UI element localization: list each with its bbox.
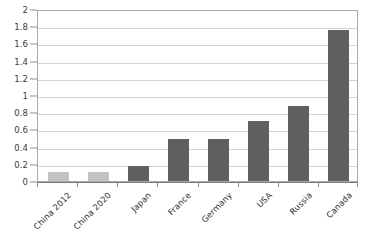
x-axis-category-label: USA	[254, 190, 274, 210]
y-axis-tick-mark	[30, 44, 37, 45]
x-axis-category-label: China 2012	[31, 190, 73, 232]
y-axis-tick-label: 1.2	[0, 75, 28, 84]
x-axis-tick-marks	[37, 182, 358, 187]
bar-chart: 00.20.40.60.811.21.41.61.82 China 2012Ch…	[0, 0, 385, 241]
y-axis-tick-label: 0.8	[0, 109, 28, 118]
bar	[328, 30, 349, 181]
bar-series	[38, 11, 357, 181]
x-axis-tick-mark	[117, 182, 118, 187]
y-axis-tick-mark	[30, 96, 37, 97]
x-axis-tick-mark	[357, 182, 358, 187]
y-axis-tick-mark	[30, 27, 37, 28]
x-axis-category-label: Russia	[287, 190, 314, 217]
y-axis-tick-label: 0.6	[0, 126, 28, 135]
y-axis-tick-mark	[30, 182, 37, 183]
y-axis-tick-mark	[30, 78, 37, 79]
y-axis-tick-label: 1.4	[0, 57, 28, 66]
bar	[48, 172, 69, 181]
bar	[208, 139, 229, 181]
y-axis-tick-mark	[30, 61, 37, 62]
x-axis-tick-mark	[157, 182, 158, 187]
bar	[288, 106, 309, 181]
x-axis-tick-mark	[318, 182, 319, 187]
y-axis-tick-label: 1.8	[0, 23, 28, 32]
x-axis-category-label: Japan	[129, 190, 153, 214]
x-axis-tick-mark	[198, 182, 199, 187]
plot-area	[37, 10, 358, 182]
y-axis-tick-mark	[30, 10, 37, 11]
y-axis-tick-mark	[30, 147, 37, 148]
y-axis-tick-mark	[30, 164, 37, 165]
bar	[248, 121, 269, 181]
x-axis-tick-mark	[77, 182, 78, 187]
y-axis-tick-marks	[30, 0, 37, 241]
x-axis-category-label: France	[166, 190, 193, 217]
bar	[128, 166, 149, 181]
x-axis-tick-mark	[37, 182, 38, 187]
y-axis-tick-mark	[30, 113, 37, 114]
x-axis-tick-mark	[278, 182, 279, 187]
x-axis-category-label: Germany	[199, 190, 234, 225]
y-axis-tick-label: 0.2	[0, 161, 28, 170]
bar	[168, 139, 189, 181]
y-axis-tick-label: 0.4	[0, 143, 28, 152]
bar	[88, 172, 109, 181]
y-axis-tick-label: 2	[0, 6, 28, 15]
x-axis-category-labels: China 2012China 2020JapanFranceGermanyUS…	[37, 188, 358, 241]
y-axis-tick-mark	[30, 130, 37, 131]
y-axis-tick-label: 1	[0, 92, 28, 101]
y-axis-tick-label: 1.6	[0, 40, 28, 49]
y-axis-tick-labels: 00.20.40.60.811.21.41.61.82	[0, 0, 28, 241]
x-axis-category-label: China 2020	[72, 190, 114, 232]
y-axis-tick-label: 0	[0, 178, 28, 187]
x-axis-tick-mark	[238, 182, 239, 187]
x-axis-category-label: Canada	[324, 190, 354, 220]
